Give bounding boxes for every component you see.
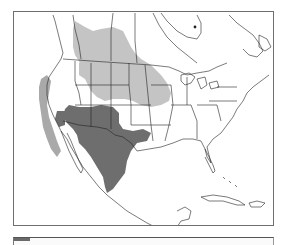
north-america-map xyxy=(14,12,274,226)
legend-swatch xyxy=(14,238,30,241)
map-frame xyxy=(13,11,274,226)
bottom-bar xyxy=(13,237,274,245)
light-range-area xyxy=(73,21,171,107)
dark-range-area xyxy=(63,105,151,193)
lake-marker xyxy=(194,26,197,29)
dark-range-west xyxy=(55,111,65,127)
